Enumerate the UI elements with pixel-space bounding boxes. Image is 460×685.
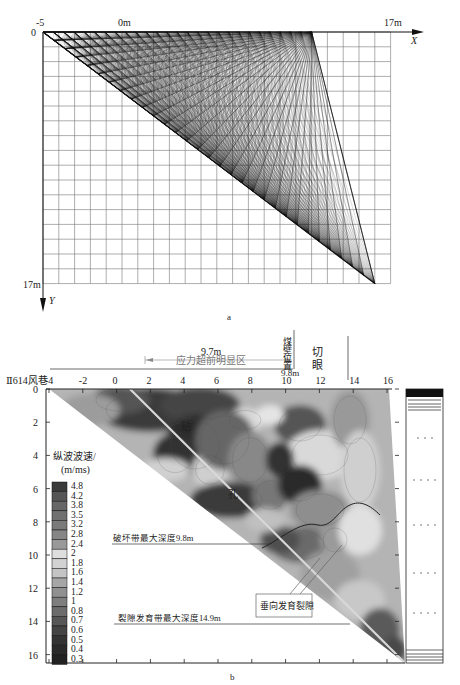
colorbar-label: 0.6 [71,625,83,635]
y-tick-label: 4 [33,450,38,461]
colorbar-label: 3.8 [71,500,83,510]
colorbar-swatch [52,655,67,665]
sandstone-dot [420,524,421,525]
colorbar-swatch [52,511,67,521]
sandstone-dot [413,479,414,480]
sandstone-dot [434,479,435,480]
strata-column [406,389,443,663]
damage-zone-label: 破坏带最大深度9.8m [113,533,194,543]
colorbar-swatch [52,588,67,598]
colorbar-title: 纵波波速/ [53,450,96,462]
colorbar-label: 1.6 [71,567,83,577]
caption-a: a [227,312,231,322]
sandstone-dot [413,612,414,613]
sandstone-dot [420,479,421,480]
y-tick-label: 6 [33,484,38,495]
colorbar-swatch [52,492,67,502]
borehole-label-1: 钻 [181,420,191,432]
y-tick-label: 17m [23,279,41,290]
colorbar-swatch [52,636,67,646]
colorbar-label: 1.8 [71,558,83,568]
ray-path [239,32,375,284]
ray-coverage-chart: -5 0m 17m X 0 17m Y a [23,17,424,322]
x-tick-label: -5 [36,17,44,28]
x-tick-label: 17m [384,17,402,28]
velocity-blob [256,405,284,425]
sandstone-dot [434,572,435,573]
caption-b: b [230,672,235,682]
colorbar-label: 0.5 [71,635,83,645]
strata-frame [406,389,443,663]
colorbar-swatch [52,482,67,492]
y-axis-label: Y [49,295,56,306]
colorbar: 4.84.23.83.53.22.82.421.81.61.41.210.80.… [52,481,83,664]
velocity-blob [60,394,120,426]
x-tick-label: 6 [214,375,219,386]
x-tick-label: 16 [383,375,393,386]
x-tick-label: -2 [79,375,87,386]
sandstone-dot [427,612,428,613]
colorbar-label: 3.5 [71,510,83,520]
colorbar-label: 3.2 [71,519,83,529]
colorbar-label: 4.8 [71,481,83,491]
colorbar-swatch [52,559,67,569]
fracture-zone-label: 裂隙发育带最大深度14.9m [118,613,221,623]
colorbar-label: 1 [71,596,76,606]
roadway-label: Ⅱ614风巷 [6,375,48,386]
colorbar-swatch [52,616,67,626]
x-tick-label: 0 [113,375,118,386]
ray-paths [43,32,375,284]
arrow-left-icon [146,358,153,362]
colorbar-swatch [52,540,67,550]
velocity-blob [140,458,190,482]
y-tick-label: 0 [31,27,36,38]
x-tick-label: 4 [180,375,185,386]
colorbar-label: 1.2 [71,587,83,597]
colorbar-swatch [52,607,67,617]
x-tick-label: 14 [349,375,359,386]
colorbar-swatch [52,597,67,607]
y-tick-label: 8 [33,517,38,528]
colorbar-swatch [52,578,67,588]
sandstone-dot [420,572,421,573]
x-tick-label: 12 [315,375,325,386]
colorbar-label: 2 [71,548,76,558]
sandstone-dot [424,437,425,438]
y-tick-label: 14 [28,616,38,627]
velocity-field [40,385,410,670]
y-tick-label: 2 [33,417,38,428]
y-tick-label: 10 [28,550,38,561]
figure: -5 0m 17m X 0 17m Y a 9.7m 应力超前明显区 煤壁位置 … [0,0,460,685]
sandstone-dot [427,479,428,480]
velocity-blob [340,430,380,510]
colorbar-swatch [52,549,67,559]
sandstone-dot [413,572,414,573]
colorbar-label: 0.4 [71,644,83,654]
x-tick-label: 10 [282,375,292,386]
velocity-contour-chart: 9.7m 应力超前明显区 煤壁位置 9.8m 切眼 钻 孔 破坏带最大深度9.8… [6,330,443,682]
sandstone-dot [413,524,414,525]
sandstone-dot [417,437,418,438]
colorbar-label: 4.2 [71,491,83,501]
stress-zone-label: 应力超前明显区 [176,354,246,366]
colorbar-label: 0.3 [71,654,83,664]
y-tick-label: 16 [28,650,38,661]
y-axis-arrow-icon [40,298,46,312]
colorbar-label: 0.8 [71,606,83,616]
colorbar-swatch [52,568,67,578]
coal-seam-layer [406,389,443,397]
colorbar-label: 2.8 [71,529,83,539]
colorbar-unit: (m/ms) [61,464,90,476]
coal-wall-label: 煤壁位置 [282,336,292,370]
velocity-blob [245,508,285,532]
colorbar-label: 1.4 [71,577,83,587]
colorbar-label: 2.4 [71,539,83,549]
cut-label: 切眼 [311,346,324,372]
colorbar-swatch [52,501,67,511]
colorbar-swatch [52,626,67,636]
sandstone-dot [434,612,435,613]
colorbar-swatch [52,520,67,530]
colorbar-label: 0.7 [71,615,83,625]
sandstone-dot [420,612,421,613]
sandstone-dot [427,524,428,525]
